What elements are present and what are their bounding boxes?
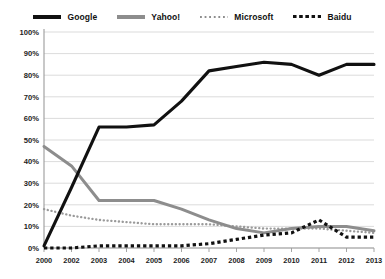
plot-area: 0%10%20%30%40%50%60%70%80%90%100% 200020… (0, 26, 385, 279)
legend-item-google: Google (33, 12, 97, 22)
y-axis-tick-label: 10% (24, 222, 39, 231)
line-dotted-icon (293, 13, 321, 22)
legend-item-yahoo: Yahoo! (117, 12, 180, 22)
legend-label: Google (67, 12, 97, 22)
chart-legend: Google Yahoo! Microsoft Baidu (0, 8, 385, 26)
legend-item-microsoft: Microsoft (200, 12, 273, 22)
x-axis-tick-label: 2007 (201, 256, 217, 265)
x-axis-tick-label: 2003 (91, 256, 107, 265)
y-axis-tick-label: 80% (24, 71, 39, 80)
line-solid-icon (33, 13, 61, 22)
x-axis-tick-label: 2008 (228, 256, 244, 265)
y-axis-tick-label: 0% (28, 244, 39, 253)
x-axis-tick-label: 2010 (283, 256, 299, 265)
y-axis-tick-label: 100% (20, 28, 40, 37)
x-axis-tick-label: 2012 (338, 256, 354, 265)
x-axis-tick-label: 2000 (36, 256, 52, 265)
x-axis-tick-marks (44, 248, 374, 252)
x-axis-tick-labels: 2000200220032004200520062007200820092010… (36, 256, 382, 265)
series-line-yahoo (44, 146, 374, 232)
y-axis-tick-label: 60% (24, 114, 39, 123)
x-axis-tick-label: 2011 (311, 256, 327, 265)
y-axis-tick-label: 40% (24, 157, 39, 166)
line-solid-icon (117, 13, 145, 22)
search-engine-market-share-chart: Google Yahoo! Microsoft Baidu 0%10%20%30… (0, 0, 385, 279)
y-axis-tick-label: 20% (24, 201, 39, 210)
x-axis-tick-label: 2005 (146, 256, 162, 265)
legend-label: Baidu (327, 12, 351, 22)
y-axis-tick-label: 30% (24, 179, 39, 188)
legend-label: Microsoft (234, 12, 273, 22)
legend-item-baidu: Baidu (293, 12, 351, 22)
y-axis-tick-label: 50% (24, 136, 39, 145)
y-axis-tick-label: 90% (24, 49, 39, 58)
line-dotted-icon (200, 13, 228, 22)
x-axis-tick-label: 2006 (173, 256, 189, 265)
chart-canvas: 0%10%20%30%40%50%60%70%80%90%100% 200020… (0, 26, 385, 279)
y-axis-tick-label: 70% (24, 93, 39, 102)
x-axis-tick-label: 2009 (256, 256, 272, 265)
x-axis-tick-label: 2002 (63, 256, 79, 265)
y-axis-tick-labels: 0%10%20%30%40%50%60%70%80%90%100% (20, 28, 40, 253)
legend-label: Yahoo! (151, 12, 180, 22)
x-axis-tick-label: 2013 (366, 256, 382, 265)
x-axis-tick-label: 2004 (118, 256, 135, 265)
